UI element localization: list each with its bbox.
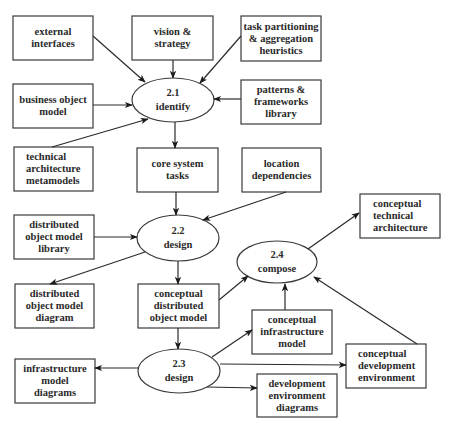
process-label-2-2: 2.2 design — [137, 215, 219, 261]
label-conceptual-infrastructure-model: conceptual infrastructure model — [252, 310, 332, 354]
label-distributed-object-model-diagram: distributed object model diagram — [15, 284, 94, 328]
process-number: 2.1 — [166, 87, 179, 99]
process-label-2-3: 2.3 design — [138, 349, 220, 393]
label-business-object-model: business object model — [13, 84, 93, 128]
label-distributed-object-model-library: distributed object model library — [14, 215, 94, 259]
label-conceptual-development-environment: conceptual development environment — [352, 344, 426, 388]
process-verb: design — [165, 372, 194, 384]
label-patterns-frameworks: patterns & frameworks library — [241, 80, 321, 124]
label-conceptual-distributed-object-model: conceptual distributed object model — [138, 284, 219, 328]
process-number: 2.3 — [172, 358, 185, 370]
label-task-partitioning: task partitioning & aggregation heuristi… — [241, 16, 321, 61]
process-number: 2.2 — [171, 225, 184, 237]
label-conceptual-technical-architecture: conceptual technical architecture — [367, 194, 440, 238]
label-core-system-tasks: core system tasks — [137, 148, 218, 192]
label-development-environment-diagrams: development environment diagrams — [257, 374, 337, 417]
process-verb: identify — [156, 101, 190, 113]
process-label-2-4: 2.4 compose — [237, 241, 317, 283]
label-technical-architecture-metamodels: technical architecture metamodels — [20, 147, 93, 191]
process-number: 2.4 — [270, 249, 283, 261]
label-vision-strategy: vision & strategy — [132, 16, 213, 60]
edge-design23-to-cde — [220, 364, 346, 365]
process-verb: design — [164, 239, 193, 251]
process-verb: compose — [258, 263, 297, 275]
label-infrastructure-model-diagrams: infrastructure model diagrams — [15, 359, 95, 403]
label-location-dependencies: location dependencies — [242, 148, 321, 192]
label-external-interfaces: external interfaces — [13, 16, 93, 60]
process-label-2-1: 2.1 identify — [132, 78, 214, 122]
